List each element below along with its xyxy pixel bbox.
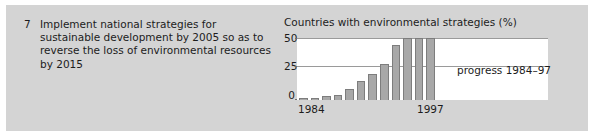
x-tick-label-start: 1984 xyxy=(298,103,325,115)
bar xyxy=(403,38,412,100)
plot-area: progress 1984–97 xyxy=(297,38,548,100)
bar xyxy=(357,81,366,100)
chart-title: Countries with environmental strategies … xyxy=(284,16,517,28)
bar xyxy=(299,98,308,100)
y-tick-label-0: 0 xyxy=(284,90,295,101)
bar xyxy=(380,64,389,100)
bar xyxy=(415,38,424,100)
x-axis: 1984 1997 xyxy=(297,103,548,117)
target-panel: 7 Implement national strategies for sust… xyxy=(6,5,588,131)
bar xyxy=(322,96,331,100)
bar xyxy=(345,89,354,100)
target-number: 7 xyxy=(24,18,40,31)
y-tick-label-25: 25 xyxy=(284,61,295,72)
bar xyxy=(426,38,435,100)
y-tick-label-50: 50 xyxy=(284,33,295,44)
chart: Countries with environmental strategies … xyxy=(284,16,580,122)
target-description: Implement national strategies for sustai… xyxy=(40,18,276,71)
x-tick-label-end: 1997 xyxy=(417,103,444,115)
bar-series xyxy=(299,38,435,100)
bar xyxy=(392,45,401,100)
target-statement: 7 Implement national strategies for sust… xyxy=(24,18,276,71)
bar xyxy=(311,98,320,100)
bar xyxy=(334,95,343,100)
y-axis: 50 25 0 xyxy=(284,38,295,100)
progress-annotation: progress 1984–97 xyxy=(457,64,551,76)
bar xyxy=(368,74,377,100)
